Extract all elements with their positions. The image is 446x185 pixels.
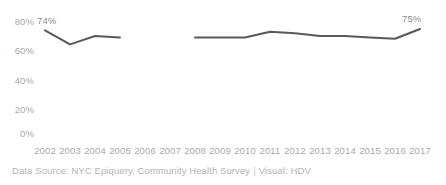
y-tick-40: 40% — [0, 76, 34, 86]
y-tick-60: 60% — [0, 46, 34, 56]
x-tick-2004: 2004 — [84, 145, 106, 156]
x-tick-2007: 2007 — [159, 145, 181, 156]
x-tick-2017: 2017 — [409, 145, 431, 156]
y-tick-0: 0% — [0, 129, 34, 139]
x-tick-2008: 2008 — [184, 145, 206, 156]
y-tick-20: 20% — [0, 105, 34, 115]
end-value-label: 75% — [402, 14, 421, 24]
x-tick-2011: 2011 — [260, 145, 281, 156]
x-tick-2006: 2006 — [134, 145, 156, 156]
chart-plot-svg — [0, 0, 446, 142]
data-line-segment-2002-2005 — [45, 30, 120, 44]
footer-visual-credit: Visual: HDV — [259, 165, 311, 176]
footer-source-text: Data Source: NYC Epiquery, Community Hea… — [12, 165, 250, 176]
x-tick-2015: 2015 — [359, 145, 381, 156]
data-line-segment-2008-2017 — [195, 29, 420, 39]
x-tick-2010: 2010 — [234, 145, 256, 156]
x-tick-2013: 2013 — [309, 145, 331, 156]
y-axis: 80% 60% 40% 20% 0% — [0, 0, 34, 142]
start-value-label: 74% — [37, 16, 56, 26]
footer-caption: Data Source: NYC Epiquery, Community Hea… — [12, 165, 311, 177]
plot-area: 80% 60% 40% 20% 0% 74% 75% — [0, 0, 446, 142]
x-tick-2012: 2012 — [284, 145, 306, 156]
x-tick-2014: 2014 — [334, 145, 356, 156]
y-tick-80: 80% — [0, 17, 34, 27]
x-tick-2009: 2009 — [209, 145, 231, 156]
x-tick-2016: 2016 — [384, 145, 406, 156]
x-tick-2003: 2003 — [59, 145, 81, 156]
line-chart: 80% 60% 40% 20% 0% 74% 75% 2002 2003 200… — [0, 0, 446, 185]
x-tick-2005: 2005 — [109, 145, 131, 156]
x-axis: 2002 2003 2004 2005 2006 2007 2008 2009 … — [0, 142, 446, 160]
footer-separator: | — [250, 165, 259, 176]
x-tick-2002: 2002 — [34, 145, 56, 156]
